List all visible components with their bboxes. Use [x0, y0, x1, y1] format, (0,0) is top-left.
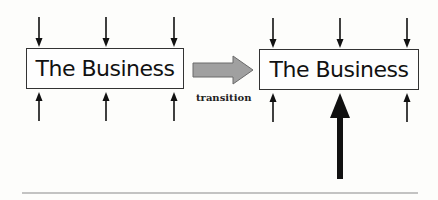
diagram-canvas: The Business The Business transition: [0, 0, 438, 200]
arrow-up-icon: [103, 92, 110, 101]
large-force-arrow: [330, 93, 350, 179]
transition-arrow-icon: [193, 56, 253, 84]
left-box-label: The Business: [36, 56, 175, 81]
arrow-up-icon: [171, 92, 178, 101]
right-business-box: The Business: [259, 49, 419, 90]
transition-caption: transition: [196, 92, 251, 103]
arrow-up-icon: [36, 92, 43, 101]
right-box-label: The Business: [270, 57, 409, 82]
arrow-down-icon: [270, 39, 277, 48]
arrow-up-icon: [404, 93, 411, 102]
left-business-box: The Business: [26, 48, 184, 89]
arrow-down-icon: [337, 39, 344, 48]
left-bottom-arrows: [36, 92, 178, 121]
right-top-arrows: [270, 18, 411, 48]
arrow-down-icon: [171, 38, 178, 47]
arrow-down-icon: [103, 38, 110, 47]
arrow-down-icon: [36, 38, 43, 47]
arrow-down-icon: [404, 39, 411, 48]
large-arrow-up-icon: [330, 93, 350, 118]
left-top-arrows: [36, 17, 178, 47]
arrow-up-icon: [270, 93, 277, 102]
